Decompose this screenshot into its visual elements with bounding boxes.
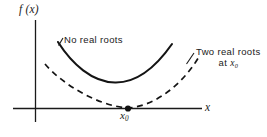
solid-parabola-curve	[58, 42, 172, 83]
x-zero-subscript: 0	[125, 115, 129, 123]
two-real-roots-leader-line	[187, 53, 195, 64]
x-axis-label: x	[205, 101, 210, 113]
x-zero-axis-label: x0	[120, 110, 129, 124]
two-real-roots-at-text: at	[219, 57, 231, 68]
quadratic-roots-figure: f (x) x No real roots Two real roots at …	[0, 0, 267, 137]
y-axis-label: f (x)	[19, 3, 39, 15]
no-real-roots-annotation: No real roots	[64, 35, 123, 45]
two-real-roots-line2: at x0	[196, 58, 261, 69]
two-real-roots-annotation: Two real roots at x0	[196, 47, 261, 69]
two-real-roots-x-subscript: 0	[235, 62, 238, 69]
two-real-roots-line1: Two real roots	[196, 46, 261, 57]
